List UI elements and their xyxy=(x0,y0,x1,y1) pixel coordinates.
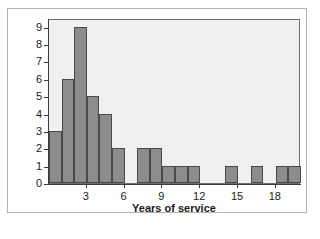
x-tick-mark xyxy=(275,184,276,188)
y-tick-mark xyxy=(44,28,48,29)
y-tick-label: 7 xyxy=(36,56,42,67)
histogram-bar xyxy=(87,96,100,183)
histogram-bar xyxy=(112,148,125,183)
y-tick-label: 4 xyxy=(36,109,42,120)
histogram-bar xyxy=(162,166,175,183)
y-tick-mark xyxy=(44,97,48,98)
x-tick-mark xyxy=(86,184,87,188)
y-tick-label: 2 xyxy=(36,143,42,154)
y-tick-label: 3 xyxy=(36,126,42,137)
x-axis-title: Years of service xyxy=(48,202,300,214)
histogram-bar xyxy=(288,166,301,183)
histogram-bar xyxy=(99,114,112,183)
x-tick-label: 18 xyxy=(269,191,281,202)
histogram-bar xyxy=(188,166,201,183)
histogram-bar xyxy=(276,166,289,183)
histogram-bar xyxy=(225,166,238,183)
histogram-bar xyxy=(74,27,87,183)
y-tick-mark xyxy=(44,184,48,185)
x-tick-mark xyxy=(161,184,162,188)
y-tick-label: 0 xyxy=(36,178,42,189)
histogram-bar xyxy=(251,166,264,183)
y-tick-mark xyxy=(44,62,48,63)
y-tick-label: 1 xyxy=(36,161,42,172)
histogram-bar xyxy=(62,79,75,183)
y-tick-mark xyxy=(44,132,48,133)
histogram-bar xyxy=(150,148,163,183)
y-tick-mark xyxy=(44,149,48,150)
histogram-bar xyxy=(49,131,62,183)
y-tick-mark xyxy=(44,45,48,46)
x-tick-label: 3 xyxy=(83,191,89,202)
y-tick-label: 9 xyxy=(36,22,42,33)
y-tick-mark xyxy=(44,115,48,116)
x-tick-label: 6 xyxy=(121,191,127,202)
histogram-figure: 0123456789 369121518 Frequency Years of … xyxy=(0,0,320,239)
plot-area xyxy=(48,19,300,184)
x-tick-mark xyxy=(124,184,125,188)
histogram-bar xyxy=(137,148,150,183)
y-tick-mark xyxy=(44,167,48,168)
y-tick-mark xyxy=(44,80,48,81)
y-tick-label: 5 xyxy=(36,91,42,102)
x-tick-label: 12 xyxy=(193,191,205,202)
x-tick-label: 15 xyxy=(231,191,243,202)
y-axis-line xyxy=(48,19,49,185)
x-tick-label: 9 xyxy=(158,191,164,202)
x-tick-mark xyxy=(237,184,238,188)
bars-layer xyxy=(49,20,299,183)
x-tick-mark xyxy=(199,184,200,188)
y-tick-label: 8 xyxy=(36,39,42,50)
y-tick-label: 6 xyxy=(36,74,42,85)
histogram-bar xyxy=(175,166,188,183)
